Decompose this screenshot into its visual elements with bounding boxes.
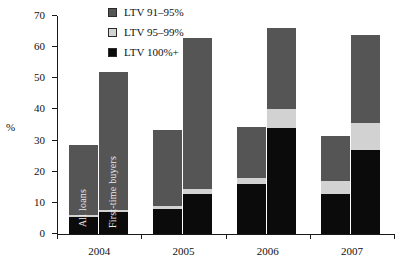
segment-ltv-91-95 <box>267 28 296 109</box>
segment-ltv-95-99 <box>351 123 380 149</box>
plot-area: 010203040506070 2004200520062007 All loa… <box>57 16 394 234</box>
y-axis-label: % <box>6 122 15 133</box>
x-tick-mark <box>394 234 395 239</box>
y-tick-mark: 10 <box>52 202 57 203</box>
x-tick-mark <box>310 234 311 239</box>
segment-ltv-95-99 <box>267 109 296 128</box>
segment-ltv-100 <box>153 209 182 234</box>
ltv-stacked-bar-chart: LTV 91–95% LTV 95–99% LTV 100%+ % 010203… <box>0 0 402 272</box>
x-tick-label: 2006 <box>257 246 279 257</box>
segment-ltv-91-95 <box>351 35 380 124</box>
segment-ltv-100 <box>183 194 212 234</box>
x-tick-mark <box>57 234 58 239</box>
y-tick-mark: 60 <box>52 46 57 47</box>
segment-ltv-91-95 <box>153 130 182 206</box>
y-tick-label: 20 <box>34 165 45 176</box>
bar-2004-all-loans: All loans <box>69 145 98 234</box>
segment-ltv-100 <box>321 194 350 234</box>
segment-ltv-100 <box>237 184 266 234</box>
segment-ltv-100 <box>267 128 296 234</box>
y-tick-mark: 30 <box>52 140 57 141</box>
x-tick-label: 2005 <box>172 246 194 257</box>
bar-2004-first-time-buyers: First-time buyers <box>99 72 128 234</box>
y-tick-label: 0 <box>40 228 46 239</box>
y-tick-mark: 50 <box>52 77 57 78</box>
x-tick-mark <box>141 234 142 239</box>
y-tick-mark: 20 <box>52 171 57 172</box>
bar-inline-label-first-time-buyers: First-time buyers <box>108 156 118 228</box>
y-tick-label: 10 <box>34 196 45 207</box>
x-tick-mark <box>226 234 227 239</box>
bar-2005-first-time-buyers <box>183 38 212 234</box>
y-tick-label: 60 <box>34 41 45 52</box>
bar-2007-first-time-buyers <box>351 35 380 234</box>
y-tick-label: 40 <box>34 103 45 114</box>
bar-2007-all-loans <box>321 136 350 234</box>
bar-2005-all-loans <box>153 130 182 234</box>
y-tick-mark: 40 <box>52 108 57 109</box>
x-tick-label: 2004 <box>88 246 110 257</box>
bar-inline-label-all-loans: All loans <box>78 189 88 227</box>
segment-ltv-100 <box>351 150 380 234</box>
segment-ltv-91-95 <box>321 136 350 181</box>
segment-ltv-91-95 <box>237 127 266 178</box>
y-tick-mark: 70 <box>52 15 57 16</box>
y-tick-label: 30 <box>34 134 45 145</box>
segment-ltv-95-99 <box>321 181 350 193</box>
y-tick-label: 50 <box>34 72 45 83</box>
segment-ltv-91-95 <box>183 38 212 189</box>
x-tick-label: 2007 <box>341 246 363 257</box>
bar-2006-first-time-buyers <box>267 28 296 234</box>
bar-2006-all-loans <box>237 127 266 234</box>
y-tick-label: 70 <box>34 10 45 21</box>
